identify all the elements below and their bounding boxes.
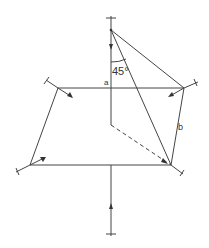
bottom-right-tick <box>180 170 184 176</box>
top-right-arrowhead-icon <box>168 92 174 97</box>
apex-to-top-right <box>111 30 184 88</box>
top-left-arrowhead-icon <box>67 92 73 98</box>
label-a: a <box>104 78 109 87</box>
top-left-tick <box>44 77 49 84</box>
angle-arc <box>111 59 126 62</box>
dashed-arrowhead-icon <box>161 158 168 164</box>
left-edge <box>30 88 58 165</box>
down-arrow-icon <box>109 44 113 50</box>
angle-label: 45° <box>112 65 129 77</box>
bottom-right-extension <box>171 165 183 174</box>
apex-point <box>110 29 113 32</box>
label-b: b <box>178 122 183 132</box>
bottom-left-extension <box>16 165 30 172</box>
force-diagram: 45° a b <box>0 0 209 248</box>
top-left-extension <box>46 80 58 88</box>
up-arrow-icon <box>109 203 113 209</box>
